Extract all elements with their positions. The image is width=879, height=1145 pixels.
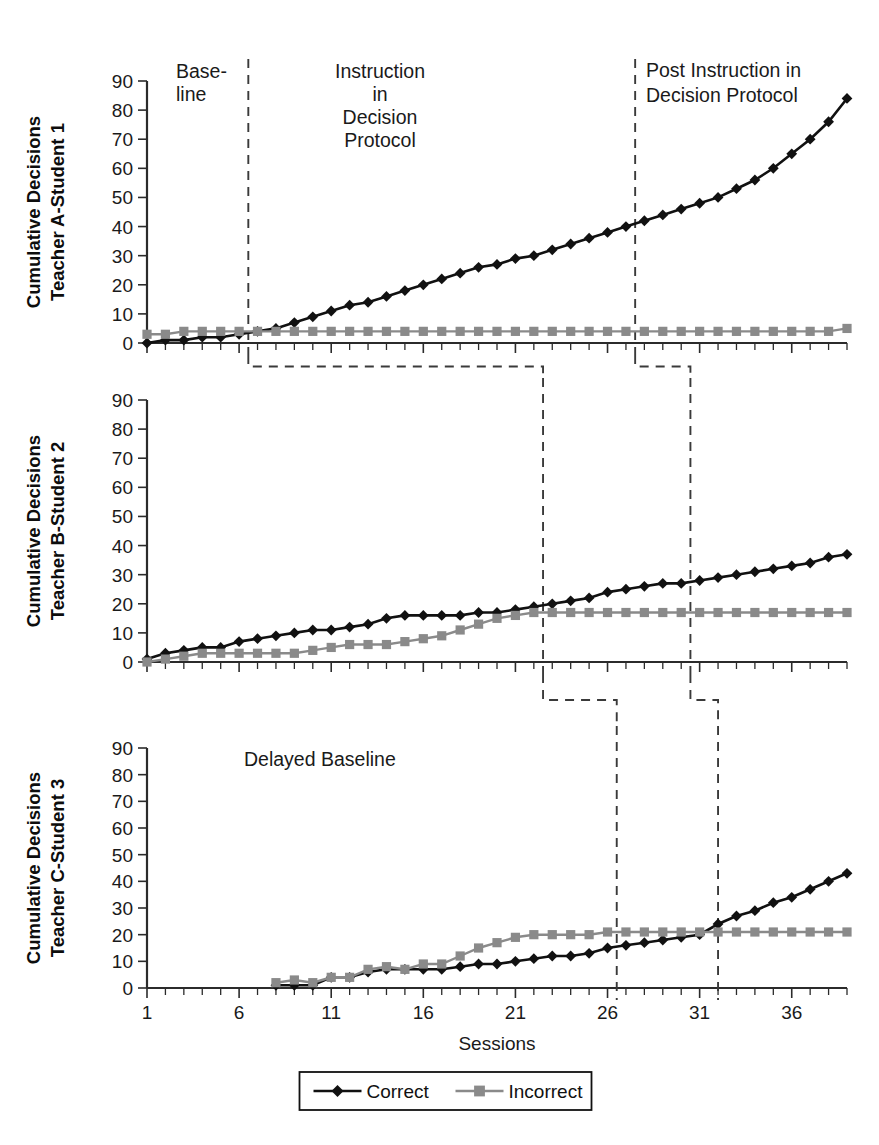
marker-correct: [565, 595, 576, 606]
marker-correct: [363, 619, 374, 630]
marker-correct: [234, 636, 245, 647]
marker-incorrect: [824, 327, 833, 336]
marker-incorrect: [787, 327, 796, 336]
marker-correct: [842, 549, 853, 560]
y-tick-label: 50: [112, 506, 133, 527]
panel-c: 0102030405060708090Cumulative DecisionsT…: [23, 726, 852, 1000]
marker-incorrect: [419, 634, 428, 643]
marker-incorrect: [142, 330, 151, 339]
marker-incorrect: [732, 327, 741, 336]
marker-correct: [492, 959, 503, 970]
marker-correct: [584, 233, 595, 244]
marker-incorrect: [511, 933, 520, 942]
marker-correct: [307, 625, 318, 636]
marker-incorrect: [603, 608, 612, 617]
marker-correct: [676, 578, 687, 589]
marker-incorrect: [327, 643, 336, 652]
marker-incorrect: [290, 649, 299, 658]
panel-b: 0102030405060708090Cumulative DecisionsT…: [23, 378, 852, 674]
marker-incorrect: [529, 327, 538, 336]
y-tick-label: 70: [112, 791, 133, 812]
x-axis-title: Sessions: [458, 1033, 535, 1054]
marker-incorrect: [216, 327, 225, 336]
marker-correct: [639, 937, 650, 948]
marker-incorrect: [713, 327, 722, 336]
marker-correct: [805, 558, 816, 569]
marker-incorrect: [621, 327, 630, 336]
marker-incorrect: [437, 631, 446, 640]
marker-incorrect: [787, 927, 796, 936]
marker-incorrect: [677, 608, 686, 617]
marker-incorrect: [382, 640, 391, 649]
marker-incorrect: [474, 943, 483, 952]
marker-incorrect: [658, 927, 667, 936]
marker-correct: [565, 239, 576, 250]
marker-correct: [749, 566, 760, 577]
marker-incorrect: [400, 637, 409, 646]
marker-correct: [731, 183, 742, 194]
marker-incorrect: [511, 611, 520, 620]
y-axis-title-a: Cumulative DecisionsTeacher A-Student 1: [23, 116, 68, 308]
y-tick-label: 0: [122, 333, 133, 354]
y-tick-label: 0: [122, 978, 133, 999]
y-tick-label: 90: [112, 738, 133, 759]
marker-correct: [602, 943, 613, 954]
series-line-correct: [147, 554, 847, 659]
marker-correct: [271, 630, 282, 641]
y-tick-label: 90: [112, 71, 133, 92]
marker-incorrect: [382, 327, 391, 336]
marker-correct: [842, 868, 853, 879]
y-tick-label: 40: [112, 217, 133, 238]
marker-correct: [344, 300, 355, 311]
marker-correct: [436, 610, 447, 621]
marker-correct: [547, 951, 558, 962]
marker-incorrect: [566, 608, 575, 617]
marker-correct: [344, 622, 355, 633]
marker-correct: [823, 552, 834, 563]
y-tick-label: 40: [112, 536, 133, 557]
marker-correct: [510, 253, 521, 264]
y-axis-title-line1: Cumulative Decisions: [23, 772, 44, 964]
y-tick-label: 60: [112, 158, 133, 179]
marker-incorrect: [750, 608, 759, 617]
y-tick-label: 50: [112, 187, 133, 208]
marker-correct: [823, 876, 834, 887]
y-tick-label: 40: [112, 871, 133, 892]
marker-correct: [547, 598, 558, 609]
marker-incorrect: [806, 608, 815, 617]
y-axis-title-line2: Teacher C-Student 3: [47, 779, 68, 958]
legend-label-correct: Correct: [367, 1081, 430, 1102]
marker-incorrect: [842, 324, 851, 333]
marker-correct: [473, 262, 484, 273]
marker-correct: [621, 940, 632, 951]
y-tick-label: 10: [112, 623, 133, 644]
marker-incorrect: [271, 327, 280, 336]
y-axis-title-line2: Teacher A-Student 1: [47, 123, 68, 301]
marker-correct: [363, 297, 374, 308]
marker-correct: [694, 198, 705, 209]
marker-incorrect: [769, 927, 778, 936]
marker-incorrect: [713, 927, 722, 936]
marker-incorrect: [179, 327, 188, 336]
marker-incorrect: [621, 608, 630, 617]
marker-incorrect: [308, 978, 317, 987]
y-tick-label: 30: [112, 565, 133, 586]
marker-incorrect: [695, 927, 704, 936]
marker-correct: [473, 607, 484, 618]
marker-incorrect: [713, 608, 722, 617]
marker-incorrect: [658, 608, 667, 617]
y-tick-label: 80: [112, 100, 133, 121]
marker-incorrect: [253, 649, 262, 658]
marker-incorrect: [290, 327, 299, 336]
y-tick-label: 90: [112, 390, 133, 411]
marker-incorrect: [308, 646, 317, 655]
marker-incorrect: [695, 608, 704, 617]
phase-label-baseline: Base- line: [176, 60, 227, 106]
y-tick-label: 80: [112, 419, 133, 440]
marker-correct: [621, 584, 632, 595]
marker-correct: [528, 250, 539, 261]
marker-incorrect: [750, 327, 759, 336]
marker-incorrect: [750, 927, 759, 936]
y-axis-title-line1: Cumulative Decisions: [23, 435, 44, 627]
marker-correct: [639, 581, 650, 592]
